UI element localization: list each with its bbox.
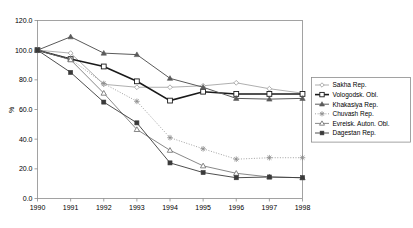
data-point-marker — [167, 76, 172, 81]
plot-area — [38, 21, 303, 199]
series-layer — [35, 34, 306, 180]
series-3 — [35, 34, 305, 101]
data-point-marker — [168, 85, 173, 90]
series-line — [38, 50, 303, 178]
data-point-marker — [69, 70, 73, 74]
series-1 — [35, 48, 305, 96]
data-point-marker — [35, 48, 39, 52]
y-axis-title: % — [8, 107, 15, 113]
data-point-marker — [300, 155, 306, 161]
data-point-marker — [234, 80, 239, 85]
data-point-marker — [167, 148, 172, 153]
data-point-marker — [134, 79, 139, 84]
y-tick-label: 100.0 — [15, 47, 33, 54]
legend-label: Khakasiya Rep. — [333, 101, 379, 109]
data-point-marker — [200, 146, 206, 152]
data-point-marker — [201, 171, 205, 175]
x-tick-label: 1994 — [162, 204, 178, 211]
legend-label: Evreisk. Auton. Obl. — [333, 120, 390, 127]
data-point-marker — [134, 85, 139, 90]
data-point-marker — [234, 176, 238, 180]
y-tick-label: 40.0 — [19, 136, 33, 143]
chart-container: 0.020.040.060.080.0100.0120.0 1990199119… — [0, 0, 413, 228]
y-tick-label: 80.0 — [19, 76, 33, 83]
data-point-marker — [101, 64, 106, 69]
data-point-marker — [267, 92, 272, 97]
data-point-marker — [101, 81, 107, 87]
data-point-marker — [320, 131, 324, 135]
data-point-marker — [233, 156, 239, 162]
data-point-marker — [168, 98, 173, 103]
legend-label: Vologodsk. Obl. — [333, 91, 379, 99]
data-point-marker — [134, 99, 140, 105]
legend-label: Sakha Rep. — [333, 81, 367, 89]
data-point-marker — [201, 89, 206, 94]
x-tick-label: 1993 — [129, 204, 145, 211]
x-axis-ticks: 199019911992199319941995199619971998 — [30, 199, 311, 211]
y-tick-label: 20.0 — [19, 165, 33, 172]
data-point-marker — [267, 155, 273, 161]
data-point-marker — [135, 121, 139, 125]
x-tick-label: 1992 — [96, 204, 112, 211]
data-point-marker — [102, 100, 106, 104]
data-point-marker — [200, 163, 205, 168]
chart-legend: Sakha Rep.Vologodsk. Obl.Khakasiya Rep.C… — [312, 78, 411, 143]
data-point-marker — [168, 161, 172, 165]
y-tick-label: 120.0 — [15, 17, 33, 24]
y-axis-ticks: 0.020.040.060.080.0100.0120.0 — [15, 17, 38, 202]
series-6 — [35, 48, 304, 180]
x-tick-label: 1990 — [30, 204, 46, 211]
x-tick-label: 1996 — [228, 204, 244, 211]
data-point-marker — [319, 111, 324, 116]
data-point-marker — [320, 92, 324, 96]
series-line — [38, 50, 303, 178]
data-point-marker — [267, 175, 271, 179]
x-tick-label: 1998 — [295, 204, 311, 211]
data-point-marker — [300, 176, 304, 180]
line-chart: 0.020.040.060.080.0100.0120.0 1990199119… — [0, 0, 413, 228]
plot-frame — [38, 21, 303, 199]
x-tick-label: 1997 — [262, 204, 278, 211]
data-point-marker — [167, 135, 173, 141]
y-tick-label: 0.0 — [23, 195, 33, 202]
y-tick-label: 60.0 — [19, 106, 33, 113]
x-tick-label: 1995 — [195, 204, 211, 211]
series-5 — [35, 47, 305, 179]
x-tick-label: 1991 — [63, 204, 79, 211]
legend-label: Dagestan Rep. — [333, 129, 377, 137]
y-axis-label: % — [8, 107, 15, 113]
data-point-marker — [68, 34, 73, 39]
legend-label: Chuvash Rep. — [333, 110, 374, 118]
data-point-marker — [267, 86, 272, 91]
